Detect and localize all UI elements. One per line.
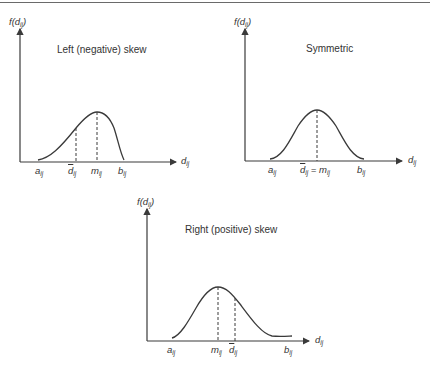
right-y-axis-label: f(dij) [137, 196, 154, 208]
right-panel-title: Right (positive) skew [185, 224, 277, 235]
right-x-axis-label: dij [315, 334, 323, 346]
sym-panel-title: Symmetric [306, 43, 353, 54]
sym-tick-b: bij [357, 164, 365, 176]
left-y-axis-label: f(dij) [9, 16, 26, 28]
right-skew-curve [172, 287, 292, 338]
right-tick-m: mij [211, 344, 222, 356]
left-tick-m: mij [91, 165, 102, 177]
left-skew-curve [38, 112, 124, 160]
left-tick-dbar: dij [68, 165, 76, 177]
left-tick-b: bij [118, 165, 126, 177]
left-tick-a: aij [35, 165, 43, 177]
sym-x-axis-label: dij [408, 154, 416, 166]
right-tick-a: aij [167, 344, 175, 356]
right-tick-dbar: dij [229, 344, 237, 356]
right-tick-b: bij [284, 344, 292, 356]
sym-tick-dbar-eq-m: dij = mij [300, 164, 330, 176]
sym-y-axis-label: f(dij) [234, 16, 251, 28]
left-x-axis-label: dij [181, 155, 189, 167]
distribution-diagrams [0, 0, 430, 367]
sym-tick-a: aij [268, 164, 276, 176]
left-panel-title: Left (negative) skew [57, 44, 147, 55]
